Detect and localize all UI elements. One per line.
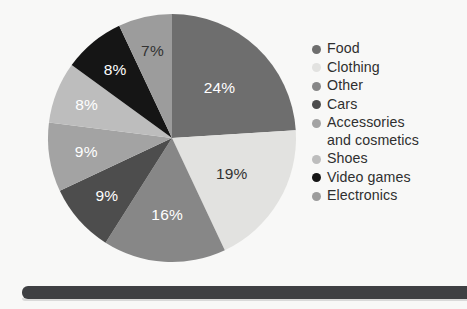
legend-item-label: Food (327, 40, 360, 58)
pie-slice-label: 8% (75, 96, 98, 113)
pie-slices-group (48, 14, 296, 262)
legend-color-swatch-icon (312, 63, 321, 72)
pie-slice-label: 7% (141, 42, 164, 59)
pie-svg: 24%19%16%9%9%8%8%7% (48, 14, 296, 262)
legend-item-label: Clothing (327, 59, 380, 77)
legend-item-label: Other (327, 77, 363, 95)
legend-item[interactable]: Accessories and cosmetics (312, 114, 464, 149)
pie-chart-figure: 24%19%16%9%9%8%8%7% FoodClothingOtherCar… (0, 0, 467, 266)
legend-item-label: Cars (327, 96, 357, 114)
slide-canvas: 24%19%16%9%9%8%8%7% FoodClothingOtherCar… (0, 0, 467, 309)
legend-color-swatch-icon (312, 100, 321, 109)
legend-item-label: Accessories and cosmetics (327, 114, 419, 149)
pie-slice-label: 24% (204, 79, 236, 96)
legend-color-swatch-icon (312, 192, 321, 201)
chart-legend: FoodClothingOtherCarsAccessories and cos… (312, 40, 464, 206)
legend-color-swatch-icon (312, 45, 321, 54)
pie-slice-label: 16% (151, 206, 183, 223)
legend-color-swatch-icon (312, 173, 321, 182)
legend-item[interactable]: Video games (312, 169, 464, 187)
legend-color-swatch-icon (312, 119, 321, 128)
legend-item[interactable]: Food (312, 40, 464, 58)
pie-slice-label: 9% (95, 187, 118, 204)
legend-color-swatch-icon (312, 155, 321, 164)
legend-item-label: Video games (327, 169, 411, 187)
legend-item[interactable]: Other (312, 77, 464, 95)
legend-item[interactable]: Clothing (312, 59, 464, 77)
pie-slice-label: 9% (75, 143, 98, 160)
pie-slice-label: 8% (104, 61, 127, 78)
legend-item[interactable]: Cars (312, 96, 464, 114)
pie-chart-graphic: 24%19%16%9%9%8%8%7% (48, 14, 296, 262)
legend-item-label: Shoes (327, 150, 368, 168)
legend-item[interactable]: Shoes (312, 150, 464, 168)
legend-item-label: Electronics (327, 187, 398, 205)
pie-slice-label: 19% (216, 165, 248, 182)
base-bar (22, 286, 467, 299)
pie-slice[interactable] (172, 14, 296, 138)
legend-color-swatch-icon (312, 82, 321, 91)
legend-item[interactable]: Electronics (312, 187, 464, 205)
